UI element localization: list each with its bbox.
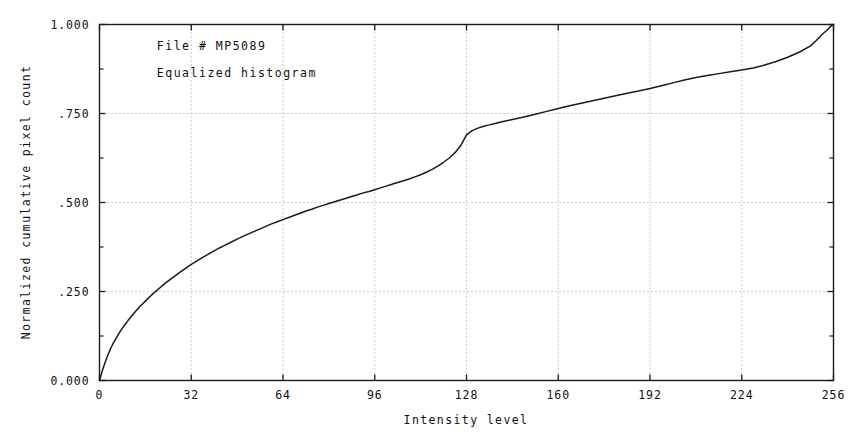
x-tick-label: 192	[638, 388, 661, 402]
x-tick-label: 224	[730, 388, 753, 402]
x-tick-label: 32	[183, 388, 199, 402]
x-tick-label: 64	[275, 388, 291, 402]
cumulative-histogram-chart: 0326496128160192224256 0.000.250.500.750…	[0, 0, 861, 441]
chart-screenshot: 0326496128160192224256 0.000.250.500.750…	[0, 0, 861, 441]
file-annotation: File # MP5089	[157, 39, 267, 53]
y-tick-label: 0.000	[50, 374, 89, 388]
y-axis-title: Normalized cumulative pixel count	[19, 65, 33, 340]
y-tick-label: .500	[58, 196, 89, 210]
y-tick-labels-group: 0.000.250.500.7501.000	[50, 18, 89, 388]
x-tick-label: 96	[367, 388, 383, 402]
x-tick-label: 160	[547, 388, 570, 402]
annotations-group: File # MP5089Equalized histogram	[157, 39, 317, 80]
description-annotation: Equalized histogram	[157, 66, 317, 80]
y-tick-label: .750	[58, 107, 89, 121]
y-tick-label: 1.000	[50, 18, 89, 32]
x-axis-title: Intensity level	[404, 413, 529, 427]
x-tick-label: 128	[455, 388, 478, 402]
x-tick-label: 0	[96, 388, 104, 402]
x-tick-label: 256	[822, 388, 845, 402]
y-tick-label: .250	[58, 285, 89, 299]
x-tick-labels-group: 0326496128160192224256	[96, 388, 846, 402]
